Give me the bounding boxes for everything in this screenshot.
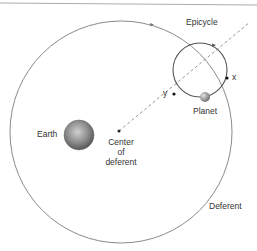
y-label: y xyxy=(163,88,167,98)
earth-icon xyxy=(64,120,94,150)
planet-icon xyxy=(200,92,210,102)
center-of-deferent-dot xyxy=(118,130,121,133)
top-rule xyxy=(0,3,257,5)
y-point xyxy=(172,92,175,95)
epicycle-circle xyxy=(173,43,227,97)
deferent-label: Deferent xyxy=(209,201,242,211)
center-label-line1: Center xyxy=(104,137,138,147)
earth-label: Earth xyxy=(37,129,57,139)
planet-label: Planet xyxy=(193,106,217,116)
x-label: x xyxy=(232,72,236,82)
center-of-deferent-label: Center of deferent xyxy=(104,137,138,167)
epicycle-label: Epicycle xyxy=(186,17,218,27)
center-label-line3: deferent xyxy=(104,157,138,167)
epicycle-diagram xyxy=(0,0,257,251)
x-point xyxy=(225,76,228,79)
center-label-line2: of xyxy=(104,147,138,157)
